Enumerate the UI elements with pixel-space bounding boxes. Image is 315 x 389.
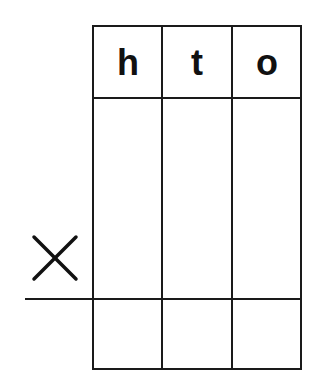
- multiplication-sign-icon: [31, 234, 79, 282]
- place-value-grid: h t o: [92, 25, 302, 370]
- result-ones-cell[interactable]: [233, 300, 300, 368]
- header-tens: t: [162, 27, 232, 98]
- grid-bottom-border: [92, 368, 302, 370]
- result-line: [25, 298, 302, 300]
- multiplicand-tens-cell[interactable]: [163, 99, 231, 298]
- multiplicand-ones-cell[interactable]: [233, 99, 300, 298]
- result-hundreds-cell[interactable]: [94, 300, 161, 368]
- multiplicand-hundreds-cell[interactable]: [94, 99, 161, 298]
- result-tens-cell[interactable]: [163, 300, 231, 368]
- header-ones: o: [232, 27, 302, 98]
- header-hundreds: h: [93, 27, 163, 98]
